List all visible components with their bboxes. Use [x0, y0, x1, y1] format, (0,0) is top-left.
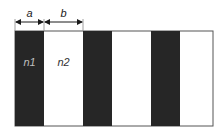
dimension-label-a: a — [26, 7, 32, 19]
stripe-dark-3 — [151, 31, 180, 126]
dimension-label-b: b — [60, 7, 66, 19]
region-label-n1: n1 — [23, 56, 35, 68]
grating-diagram: a b n1 n2 — [0, 0, 223, 134]
region-label-n2: n2 — [57, 56, 69, 68]
stripe-dark-2 — [83, 31, 112, 126]
grating-outline — [15, 31, 213, 126]
stripe-dark-1 — [15, 31, 44, 126]
